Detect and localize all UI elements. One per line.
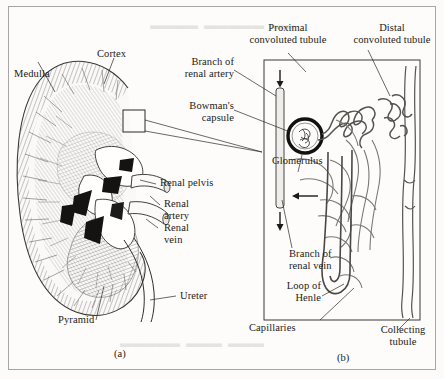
panel-caption-b: (b) [337, 352, 349, 363]
label-loop-of-henle: Loop of Henle [255, 280, 321, 303]
label-cortex: Cortex [97, 48, 126, 60]
label-branch-of-renal-artery: Branch of renal artery [160, 56, 234, 79]
label-pyramid: Pyramid [58, 314, 94, 326]
label-distal-convoluted-tubule: Distal convoluted tubule [340, 22, 444, 45]
label-renal-pelvis: Renal pelvis [160, 177, 213, 189]
label-branch-of-renal-vein: Branch of renal vein [289, 248, 332, 271]
label-proximal-convoluted-tubule: Proximal convoluted tubule [232, 22, 344, 45]
kidney-nephron-figure: ▬▬▬▬ ▬▬▬▬▬ ▬▬ ▬▬▬▬▬ ▬▬▬ ▬▬▬ [0, 0, 444, 379]
label-medulla: Medulla [14, 68, 50, 80]
label-glomerulus: Glomerulus [272, 155, 323, 167]
label-renal-artery: Renal artery [164, 198, 189, 221]
label-ureter: Ureter [180, 290, 207, 302]
label-bowmans-capsule: Bowman's capsule [166, 100, 234, 123]
panel-caption-a: (a) [114, 348, 126, 359]
label-capillaries: Capillaries [249, 322, 296, 334]
label-renal-vein: Renal vein [164, 222, 189, 245]
label-collecting-tubule: Collecting tubule [370, 324, 436, 347]
